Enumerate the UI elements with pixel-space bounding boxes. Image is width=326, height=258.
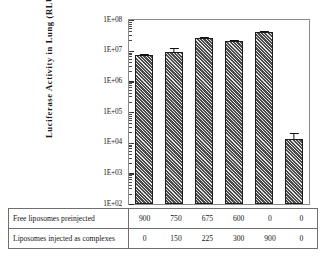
bar xyxy=(285,139,303,204)
error-bar-cap xyxy=(169,48,178,49)
table-cell: 675 xyxy=(192,209,223,228)
error-bar xyxy=(263,31,264,33)
y-tick-label: 1E+06 xyxy=(103,76,122,85)
table-cell: 750 xyxy=(160,209,191,228)
y-tick-label: 1E+02 xyxy=(103,199,122,208)
error-bar xyxy=(233,40,234,42)
bar-column xyxy=(189,20,219,204)
error-bar-cap xyxy=(139,54,148,55)
y-tick-label: 1E+05 xyxy=(103,107,122,116)
figure-container: Luciferase Activity in Lung (RLU/mg) 1E+… xyxy=(0,0,326,258)
bar-column xyxy=(159,20,189,204)
table-cell: 900 xyxy=(254,229,285,248)
bar xyxy=(135,55,153,204)
table-row-cells: 01502253009000 xyxy=(129,229,317,248)
table-cell: 900 xyxy=(129,209,160,228)
table-cell: 150 xyxy=(160,229,191,248)
error-bar-cap xyxy=(259,31,268,32)
table-row-cells: 90075067560000 xyxy=(129,209,317,228)
table-row: Liposomes injected as complexes 01502253… xyxy=(9,229,317,248)
bar-column xyxy=(219,20,249,204)
bar xyxy=(165,52,183,204)
y-tick-label: 1E+08 xyxy=(103,15,122,24)
data-table: Free liposomes preinjected 9007506756000… xyxy=(8,208,318,249)
y-tick-label: 1E+07 xyxy=(103,45,122,54)
table-row: Free liposomes preinjected 9007506756000… xyxy=(9,209,317,229)
error-bar xyxy=(203,37,204,40)
table-cell: 0 xyxy=(286,229,317,248)
error-bar xyxy=(143,54,144,56)
y-tick-mark xyxy=(129,204,134,205)
y-tick-label: 1E+03 xyxy=(103,168,122,177)
bar-column xyxy=(129,20,159,204)
bar-column xyxy=(279,20,309,204)
table-row-label: Liposomes injected as complexes xyxy=(9,229,129,248)
bar xyxy=(225,41,243,204)
y-axis-title: Luciferase Activity in Lung (RLU/mg) xyxy=(44,0,54,152)
table-cell: 0 xyxy=(254,209,285,228)
y-tick-label: 1E+04 xyxy=(103,137,122,146)
error-bar xyxy=(293,133,294,140)
bar xyxy=(255,32,273,204)
error-bar xyxy=(173,48,174,53)
error-bar-cap xyxy=(289,133,298,134)
table-cell: 300 xyxy=(223,229,254,248)
bar-series xyxy=(129,20,309,204)
bar-column xyxy=(249,20,279,204)
table-cell: 600 xyxy=(223,209,254,228)
table-cell: 0 xyxy=(129,229,160,248)
table-row-label: Free liposomes preinjected xyxy=(9,209,129,228)
table-cell: 0 xyxy=(286,209,317,228)
error-bar-cap xyxy=(229,40,238,41)
bar xyxy=(195,38,213,204)
error-bar-cap xyxy=(199,37,208,38)
table-cell: 225 xyxy=(192,229,223,248)
plot-area: 1E+081E+071E+061E+051E+041E+031E+02 xyxy=(128,19,310,205)
